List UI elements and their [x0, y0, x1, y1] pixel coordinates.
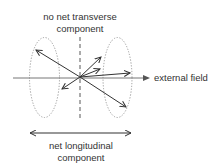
bottom-label-line2: component [31, 152, 131, 164]
net-longitudinal-label: net longitudinal component [31, 140, 131, 164]
external-field-arrowhead-icon [143, 75, 150, 81]
external-field-label: external field [154, 72, 208, 84]
vector-upright-long [80, 57, 101, 77]
bottom-label-line1: net longitudinal [31, 140, 131, 152]
vector-long-diagonal-downright [80, 77, 126, 107]
vector-long-diagonal-upleft [36, 50, 80, 77]
top-label-line2: component [30, 23, 130, 35]
vector-downleft-short [62, 77, 80, 89]
top-label-line1: no net transverse [30, 11, 130, 23]
no-net-transverse-label: no net transverse component [30, 11, 130, 35]
